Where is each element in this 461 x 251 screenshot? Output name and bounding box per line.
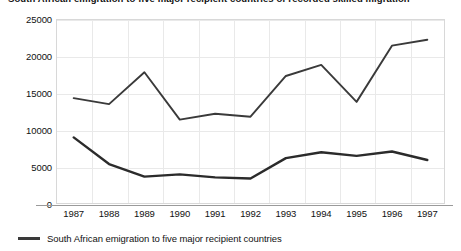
x-axis-tick-label: 1988	[99, 208, 120, 219]
series-line-0	[74, 40, 428, 120]
x-axis-tick-label: 1990	[169, 208, 190, 219]
chart-title-strip: South African emigration to five major r…	[0, 0, 461, 8]
y-axis-tick-label: 20000	[0, 51, 52, 62]
y-axis: 0500010000150002000025000	[0, 19, 52, 204]
x-axis-tick-label: 1987	[63, 208, 84, 219]
x-axis-tick-label: 1997	[417, 208, 438, 219]
x-axis-tick-label: 1996	[382, 208, 403, 219]
y-axis-tick-label: 10000	[0, 125, 52, 136]
axis-baseline	[36, 205, 453, 206]
legend-line-swatch-icon	[18, 237, 40, 240]
x-axis: 1987198819891990199119921993199419951996…	[0, 208, 461, 222]
legend-item-label: South African emigration to five major r…	[47, 233, 282, 244]
series-overlay	[56, 19, 445, 204]
x-axis-tick-label: 1992	[240, 208, 261, 219]
emigration-line-chart: South African emigration to five major r…	[0, 0, 461, 251]
y-axis-tick-label: 25000	[0, 14, 52, 25]
series-line-1	[74, 137, 428, 178]
x-axis-tick-label: 1993	[276, 208, 297, 219]
x-axis-tick-label: 1989	[134, 208, 155, 219]
x-axis-tick-label: 1995	[346, 208, 367, 219]
x-axis-tick-label: 1991	[205, 208, 226, 219]
page-title: South African emigration to five major r…	[8, 0, 410, 4]
y-axis-tick-label: 15000	[0, 88, 52, 99]
y-axis-tick-label: 5000	[0, 162, 52, 173]
x-axis-tick-label: 1994	[311, 208, 332, 219]
legend: South African emigration to five major r…	[18, 233, 282, 244]
